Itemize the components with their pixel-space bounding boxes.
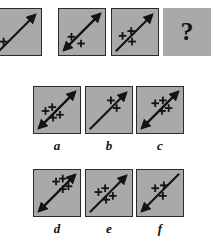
option-label-b: b xyxy=(85,138,133,154)
option-b[interactable] xyxy=(85,86,133,134)
question-mark-glyph: ? xyxy=(164,9,210,55)
option-a-figure xyxy=(34,87,80,133)
question-panel-2 xyxy=(58,8,106,56)
option-label-e: e xyxy=(85,221,133,237)
panel-3-figure xyxy=(112,9,158,55)
arrow-line xyxy=(142,174,179,211)
arrow-line xyxy=(116,15,152,51)
arrow-line xyxy=(90,93,126,129)
option-c-figure xyxy=(137,87,183,133)
arrow-line xyxy=(90,176,126,212)
question-panel-unknown: ? xyxy=(163,8,211,56)
option-d[interactable] xyxy=(33,169,81,217)
arrow-line xyxy=(0,15,35,51)
option-d-figure xyxy=(34,170,80,216)
option-e[interactable] xyxy=(85,169,133,217)
panel-2-figure xyxy=(59,9,105,55)
puzzle-canvas: ? xyxy=(0,0,213,248)
option-label-c: c xyxy=(136,138,184,154)
plus-group xyxy=(119,27,136,45)
option-c[interactable] xyxy=(136,86,184,134)
option-e-figure xyxy=(86,170,132,216)
option-label-d: d xyxy=(33,221,81,237)
option-label-f: f xyxy=(136,221,184,237)
plus-group xyxy=(151,182,167,200)
option-b-figure xyxy=(86,87,132,133)
plus-group xyxy=(52,175,72,193)
option-f[interactable] xyxy=(136,169,184,217)
question-panel-3 xyxy=(111,8,159,56)
option-label-a: a xyxy=(33,138,81,154)
option-f-figure xyxy=(137,170,183,216)
option-a[interactable] xyxy=(33,86,81,134)
question-panel-1 xyxy=(0,8,42,56)
panel-1-figure xyxy=(0,9,41,55)
